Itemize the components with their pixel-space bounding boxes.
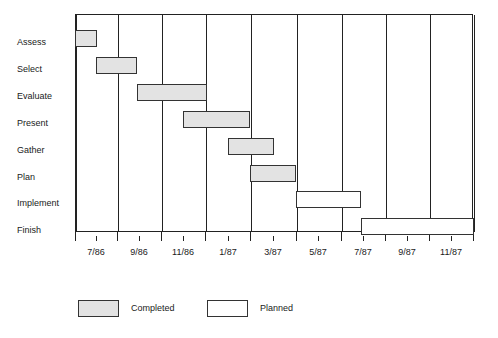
tick-minor-1 (139, 236, 140, 241)
gridline-1 (118, 15, 119, 232)
gridline-8 (430, 15, 431, 232)
legend-label-completed: Completed (131, 303, 175, 314)
task-label-gather: Gather (0, 145, 68, 156)
gantt-bar-finish[interactable] (361, 218, 474, 235)
x-axis-tick-label: 1/87 (204, 247, 252, 258)
x-axis-tick-label: 7/87 (339, 247, 387, 258)
x-axis-tick-label: 11/87 (427, 247, 475, 258)
legend-swatch-completed[interactable] (78, 300, 119, 317)
gridline-9 (474, 15, 475, 232)
legend-label-planned: Planned (260, 303, 293, 314)
tick-major-3 (205, 232, 206, 241)
tick-major-2 (161, 232, 162, 241)
gantt-bar-present[interactable] (183, 111, 250, 128)
task-label-assess: Assess (0, 37, 68, 48)
gantt-bar-assess[interactable] (75, 30, 97, 47)
x-axis-tick-label: 9/87 (383, 247, 431, 258)
plot-area (75, 14, 473, 232)
tick-minor-4 (273, 236, 274, 241)
gridline-0 (76, 15, 77, 232)
x-axis-tick-label: 11/86 (159, 247, 207, 258)
x-axis-tick-label: 7/86 (72, 247, 120, 258)
task-label-present: Present (0, 118, 68, 129)
x-axis-tick-label: 9/86 (115, 247, 163, 258)
tick-major-4 (250, 232, 251, 241)
task-label-finish: Finish (0, 225, 68, 236)
tick-major-0 (75, 232, 76, 241)
tick-minor-6 (363, 236, 364, 241)
gantt-chart: 7/869/8611/861/873/875/877/879/8711/87 A… (0, 0, 498, 338)
tick-major-6 (341, 232, 342, 241)
tick-minor-7 (407, 236, 408, 241)
gantt-bar-gather[interactable] (228, 138, 274, 155)
tick-major-5 (296, 232, 297, 241)
x-axis-tick-label: 3/87 (249, 247, 297, 258)
tick-major-1 (117, 232, 118, 241)
gridline-7 (386, 15, 387, 232)
task-label-evaluate: Evaluate (0, 91, 68, 102)
tick-minor-0 (96, 236, 97, 241)
gantt-bar-evaluate[interactable] (137, 84, 207, 101)
gantt-bar-implement[interactable] (296, 191, 361, 208)
gridline-2 (162, 15, 163, 232)
gantt-bar-select[interactable] (96, 57, 137, 74)
gridline-4 (251, 15, 252, 232)
task-label-plan: Plan (0, 172, 68, 183)
legend-swatch-planned[interactable] (207, 300, 248, 317)
gantt-bar-plan[interactable] (250, 165, 296, 182)
tick-minor-3 (228, 236, 229, 241)
task-label-select: Select (0, 64, 68, 75)
tick-minor-8 (451, 236, 452, 241)
tick-minor-5 (318, 236, 319, 241)
x-axis-tick-label: 5/87 (294, 247, 342, 258)
tick-minor-2 (183, 236, 184, 241)
task-label-implement: Implement (0, 198, 68, 209)
